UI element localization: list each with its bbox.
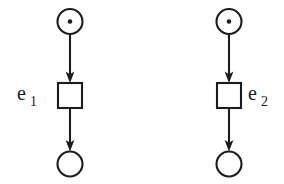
transition-left-label-subscript: 1 — [30, 94, 37, 109]
place-right-output[interactable] — [217, 152, 242, 177]
token-dot-icon — [68, 19, 73, 24]
transition-box-icon — [58, 83, 82, 108]
arc-right-in — [225, 34, 234, 83]
arc-left-out — [66, 108, 75, 152]
transition-left[interactable] — [58, 83, 82, 108]
place-left-output[interactable] — [58, 152, 83, 177]
transition-left-label-base: e — [17, 82, 26, 104]
place-circle-icon — [58, 152, 83, 177]
transition-right-label-base: e — [248, 82, 257, 104]
transition-left-label: e 1 — [17, 82, 37, 109]
place-left-input[interactable] — [58, 9, 83, 34]
place-circle-icon — [217, 152, 242, 177]
transition-right-label-subscript: 2 — [261, 94, 268, 109]
place-right-input[interactable] — [217, 9, 242, 34]
arc-right-out — [225, 108, 234, 152]
net-left: e 1 — [17, 9, 83, 177]
transition-box-icon — [217, 83, 241, 108]
petri-net-diagram: e 1 — [0, 0, 284, 184]
arc-left-in — [66, 34, 75, 83]
transition-right[interactable] — [217, 83, 241, 108]
petri-net-canvas: e 1 — [0, 0, 284, 184]
net-right: e 2 — [217, 9, 269, 177]
transition-right-label: e 2 — [248, 82, 268, 109]
token-dot-icon — [227, 19, 232, 24]
